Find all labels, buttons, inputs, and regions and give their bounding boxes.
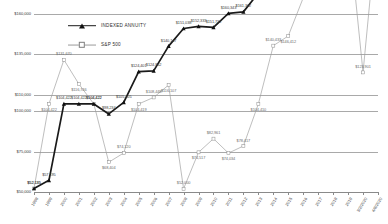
data-point-value-label: $82,961 xyxy=(207,131,221,135)
data-point-value-label: $104,422 xyxy=(71,96,87,100)
x-axis-tick-label: 2002 xyxy=(90,197,99,207)
x-axis-tick xyxy=(303,192,304,195)
data-point-value-label: $152,333 xyxy=(191,19,207,23)
x-axis-tick-label: 2011 xyxy=(225,197,233,207)
data-point-value-label: $104,422 xyxy=(41,108,57,112)
x-axis-tick xyxy=(273,192,274,195)
data-point-value-label: $68,404 xyxy=(102,166,116,170)
legend-label-indexed-annuity: INDEXED ANNUITY xyxy=(101,23,146,28)
x-axis-tick xyxy=(79,192,80,195)
x-axis-tick xyxy=(139,192,140,195)
data-point-marker-square[interactable] xyxy=(107,161,110,164)
data-point-marker-square[interactable] xyxy=(197,151,200,154)
data-point-marker-square[interactable] xyxy=(242,145,245,148)
data-point-value-label: $105,405 xyxy=(116,95,132,99)
legend-item-sp500[interactable]: S&P 500 xyxy=(68,39,146,50)
data-point-value-label: $131,670 xyxy=(56,52,72,56)
data-point-value-label: $74,034 xyxy=(222,157,236,161)
data-point-marker-square[interactable] xyxy=(137,102,140,105)
data-point-marker-square[interactable] xyxy=(152,96,155,99)
data-point-value-label: $116,746 xyxy=(71,88,86,92)
x-axis-tick-label: 1999 xyxy=(46,197,55,207)
x-axis-tick-label: 2009 xyxy=(195,197,204,207)
y-axis-tick-label: $160,000 xyxy=(14,12,31,16)
x-axis-tick-label: 2001 xyxy=(75,197,84,207)
data-point-value-label: $124,862 xyxy=(146,63,162,67)
x-axis: 1998199920002001200220032004200520062007… xyxy=(34,192,378,224)
y-axis-tick-label: $100,000 xyxy=(14,109,31,113)
data-point-value-label: $98,234 xyxy=(102,106,116,110)
x-axis-tick-label: 2016 xyxy=(300,197,309,207)
data-point-value-label: $52,135 xyxy=(27,181,41,185)
x-axis-tick xyxy=(258,192,259,195)
data-point-value-label: $146,412 xyxy=(280,40,296,44)
data-point-value-label: $104,410 xyxy=(251,108,267,112)
data-point-marker-square[interactable] xyxy=(227,152,230,155)
y-axis-tick-label: $135,000 xyxy=(14,52,31,56)
y-axis-tick-label: $75,000 xyxy=(17,150,31,154)
x-axis-tick-label: 2007 xyxy=(165,197,174,207)
x-axis-tick xyxy=(199,192,200,195)
data-point-value-label: $124,401 xyxy=(131,64,147,68)
x-axis-tick-label: 3/2/2020 xyxy=(356,197,368,213)
x-axis-tick xyxy=(348,192,349,195)
chart-legend: INDEXED ANNUITY S&P 500 xyxy=(68,20,146,50)
data-point-marker-square[interactable] xyxy=(167,84,170,87)
x-axis-tick-label: 2018 xyxy=(330,197,339,207)
x-axis-tick xyxy=(154,192,155,195)
data-point-marker-square[interactable] xyxy=(257,102,260,105)
data-point-value-label: $140,433 xyxy=(266,38,282,42)
data-point-value-label: $151,038 xyxy=(176,21,192,25)
x-axis-tick xyxy=(213,192,214,195)
data-point-value-label: $116,107 xyxy=(161,89,176,93)
x-axis-line xyxy=(34,192,378,193)
data-point-value-label: $140,147 xyxy=(161,39,177,43)
x-axis-tick xyxy=(94,192,95,195)
x-axis-tick xyxy=(363,192,364,195)
data-point-marker-square[interactable] xyxy=(47,102,50,105)
legend-label-sp500: S&P 500 xyxy=(101,42,121,47)
x-axis-tick-label: 4/8/2020 xyxy=(371,197,383,213)
data-point-value-label: $151,732 xyxy=(206,20,222,24)
x-axis-tick xyxy=(333,192,334,195)
data-point-value-label: $104,422 xyxy=(86,96,102,100)
data-point-marker-square[interactable] xyxy=(122,151,125,154)
data-point-value-label: $160,343 xyxy=(221,6,237,10)
data-point-marker-square[interactable] xyxy=(212,137,215,140)
x-axis-tick-label: 2000 xyxy=(60,197,69,207)
x-axis-tick xyxy=(243,192,244,195)
x-axis-tick-label: 2017 xyxy=(315,197,324,207)
x-axis-tick-label: 2008 xyxy=(180,197,189,207)
data-point-value-label: $78,417 xyxy=(237,139,251,143)
x-axis-tick-label: 2015 xyxy=(285,197,294,207)
data-point-value-label: $108,448 xyxy=(146,90,162,94)
data-point-marker-square[interactable] xyxy=(287,34,290,37)
x-axis-tick xyxy=(34,192,35,195)
data-point-marker-square[interactable] xyxy=(272,44,275,47)
x-axis-tick-label: 2019 xyxy=(345,197,354,207)
x-axis-tick xyxy=(64,192,65,195)
data-point-value-label: $74,517 xyxy=(192,156,206,160)
x-axis-tick-label: 2006 xyxy=(150,197,159,207)
x-axis-tick xyxy=(109,192,110,195)
x-axis-tick-label: 2004 xyxy=(120,197,129,207)
data-point-marker-square[interactable] xyxy=(62,58,65,61)
legend-item-indexed-annuity[interactable]: INDEXED ANNUITY xyxy=(68,20,146,31)
x-axis-tick xyxy=(378,192,379,195)
x-axis-tick-label: 2010 xyxy=(210,197,219,207)
x-axis-tick-label: 2014 xyxy=(270,197,279,207)
data-point-value-label: $104,419 xyxy=(131,108,147,112)
x-axis-tick xyxy=(124,192,125,195)
y-axis-tick-label: $50,000 xyxy=(17,190,31,194)
x-axis-tick-label: 1998 xyxy=(31,197,40,207)
data-point-marker-square[interactable] xyxy=(77,82,80,85)
x-axis-tick xyxy=(288,192,289,195)
y-axis-tick-label: $110,000 xyxy=(15,93,31,97)
data-point-value-label: $104,422 xyxy=(56,96,72,100)
data-point-value-label: $52,000 xyxy=(177,181,191,185)
x-axis-tick-label: 2012 xyxy=(240,197,249,207)
data-point-marker-square[interactable] xyxy=(362,71,365,74)
x-axis-tick-label: 2005 xyxy=(135,197,144,207)
x-axis-tick-label: 2003 xyxy=(105,197,114,207)
data-point-marker-square[interactable] xyxy=(182,187,185,190)
